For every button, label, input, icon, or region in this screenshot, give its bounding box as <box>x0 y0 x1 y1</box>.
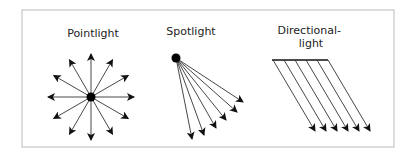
ray-arrow <box>91 97 128 119</box>
pointlight-label-line: Pointlight <box>67 27 119 40</box>
spotlight-label: Spotlight <box>166 25 216 38</box>
ray-arrow <box>273 60 315 131</box>
ray-arrow <box>328 60 370 131</box>
pointlight-label: Pointlight <box>67 27 119 40</box>
pointlight-panel: Pointlight <box>48 27 134 140</box>
ray-arrow <box>91 60 113 97</box>
spotlight-rays <box>176 58 243 139</box>
directional-rays <box>273 60 370 131</box>
directional-label-line-2: light <box>299 37 324 50</box>
ray-arrow <box>176 58 204 135</box>
ray-arrow <box>284 60 326 131</box>
ray-arrow <box>306 60 348 131</box>
ray-arrow <box>295 60 337 131</box>
spotlight-label-line: Spotlight <box>166 25 216 38</box>
light-types-diagram: Pointlight Spotlight Directional- light <box>0 0 413 160</box>
ray-arrow <box>54 76 91 98</box>
ray-arrow <box>54 97 91 119</box>
ray-arrow <box>176 58 243 102</box>
ray-arrow <box>91 76 128 98</box>
ray-arrow <box>176 58 226 120</box>
ray-arrow <box>176 58 216 128</box>
directional-panel: Directional- light <box>272 24 370 131</box>
ray-arrow <box>317 60 359 131</box>
spotlight-panel: Spotlight <box>166 25 243 139</box>
ray-arrow <box>91 97 113 134</box>
directional-label-line-1: Directional- <box>278 24 341 37</box>
pointlight-source-icon <box>87 93 96 102</box>
ray-arrow <box>70 97 92 134</box>
spotlight-source-icon <box>172 54 181 63</box>
directional-label: Directional- light <box>278 24 345 50</box>
ray-arrow <box>70 60 92 97</box>
